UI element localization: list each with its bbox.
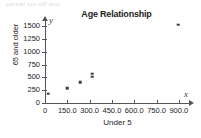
scatter-point xyxy=(91,76,94,79)
x-axis-variable-symbol: x xyxy=(184,89,188,99)
x-tick-label: 0 xyxy=(43,107,47,115)
y-tick-label: 1000 xyxy=(0,48,40,56)
x-tick-mark xyxy=(134,100,135,104)
scatter-point xyxy=(177,23,180,26)
top-cutoff-artifact: partial cut-off text xyxy=(6,1,136,8)
y-tick-label: 1250 xyxy=(0,35,40,43)
x-tick-mark xyxy=(67,100,68,104)
y-tick-label: 750 xyxy=(0,61,40,69)
chart-figure: partial cut-off text Age Relationship y … xyxy=(0,0,201,138)
x-tick-label: 300.0 xyxy=(80,107,99,115)
y-axis-title: 65 and older xyxy=(11,14,20,76)
y-tick-mark xyxy=(42,90,47,91)
y-tick-mark xyxy=(42,52,47,53)
y-axis-variable-symbol: y xyxy=(49,15,53,25)
y-tick-label: 250 xyxy=(0,86,40,94)
x-tick-mark xyxy=(90,100,91,104)
y-tick-label: 500 xyxy=(0,73,40,81)
y-tick-mark xyxy=(42,77,47,78)
x-axis-title: Under 5 xyxy=(45,118,190,127)
scatter-point xyxy=(79,81,82,84)
y-tick-label: 1500 xyxy=(0,22,40,30)
x-tick-mark xyxy=(157,100,158,104)
y-tick-mark xyxy=(42,65,47,66)
y-tick-label: 0 xyxy=(0,99,40,107)
scatter-point xyxy=(91,72,94,75)
x-tick-label: 750.0 xyxy=(147,107,166,115)
x-tick-mark xyxy=(112,100,113,104)
x-tick-label: 450.0 xyxy=(103,107,122,115)
x-tick-mark xyxy=(45,100,46,104)
y-axis-arrow-icon xyxy=(42,16,48,21)
x-axis-arrow-icon xyxy=(189,100,194,106)
x-tick-label: 900.0 xyxy=(169,107,188,115)
x-tick-mark xyxy=(179,100,180,104)
scatter-point xyxy=(47,92,50,95)
chart-title: Age Relationship xyxy=(0,9,201,19)
y-tick-mark xyxy=(42,39,47,40)
scatter-point xyxy=(66,87,69,90)
y-tick-mark xyxy=(42,26,47,27)
x-tick-label: 600.0 xyxy=(125,107,144,115)
x-tick-label: 150.0 xyxy=(58,107,77,115)
